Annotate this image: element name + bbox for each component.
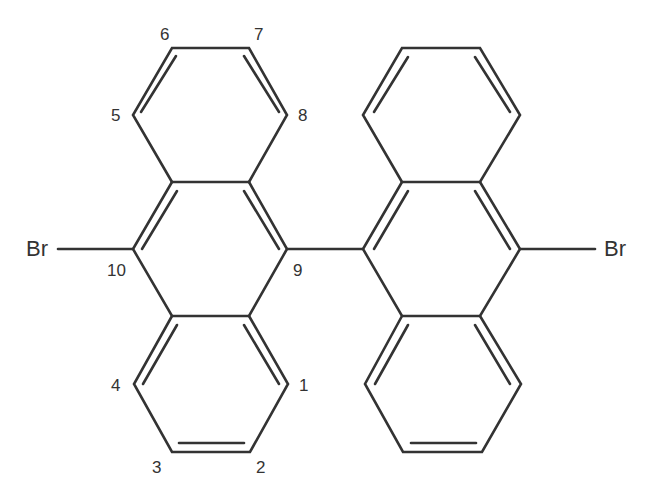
molecule-structure [0, 0, 645, 498]
position-label-3: 3 [152, 459, 161, 476]
bromine-left: Br [26, 238, 48, 260]
position-label-10: 10 [107, 262, 126, 279]
position-label-6: 6 [160, 26, 169, 43]
left-anthracene [58, 48, 288, 452]
position-label-4: 4 [111, 377, 120, 394]
position-label-7: 7 [254, 26, 263, 43]
position-label-8: 8 [298, 107, 307, 124]
position-label-2: 2 [256, 459, 265, 476]
right-anthracene [363, 48, 595, 452]
position-label-1: 1 [299, 377, 308, 394]
position-label-9: 9 [293, 262, 302, 279]
bromine-right: Br [604, 238, 626, 260]
position-label-5: 5 [111, 107, 120, 124]
